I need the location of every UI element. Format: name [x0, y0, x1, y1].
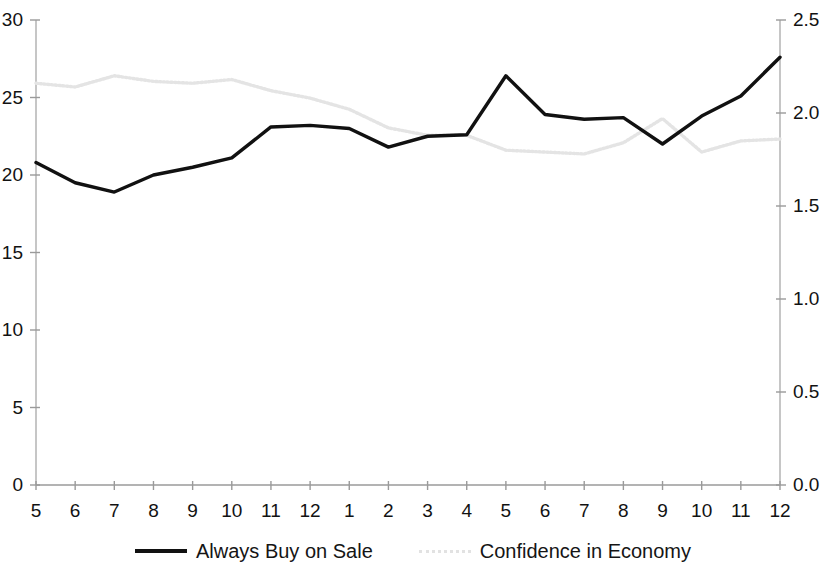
x-axis-tick-label: 7 [94, 501, 134, 520]
y-axis-left-tick-label: 30 [0, 10, 23, 29]
dotted-line-swatch-icon [419, 550, 471, 553]
legend-label: Confidence in Economy [480, 540, 691, 562]
y-axis-left-tick-label: 25 [0, 88, 23, 107]
y-axis-right-tick-label: 2.5 [793, 10, 819, 29]
y-axis-left-tick-label: 15 [0, 243, 23, 262]
x-axis-tick-label: 9 [643, 501, 683, 520]
y-axis-left-tick-label: 20 [0, 165, 23, 184]
y-axis-right-tick-label: 0.5 [793, 382, 819, 401]
y-axis-right-tick-label: 2.0 [793, 103, 819, 122]
legend-label: Always Buy on Sale [196, 540, 373, 562]
y-axis-left-tick-label: 5 [0, 398, 23, 417]
y-axis-right-tick-label: 1.0 [793, 289, 819, 308]
x-axis-tick-label: 12 [290, 501, 330, 520]
chart-plot-area [0, 0, 826, 568]
x-axis-tick-label: 2 [368, 501, 408, 520]
legend-item-always-buy-on-sale[interactable]: Always Buy on Sale [135, 540, 373, 562]
x-axis-tick-label: 5 [486, 501, 526, 520]
x-axis-tick-label: 11 [251, 501, 291, 520]
x-axis-tick-label: 7 [564, 501, 604, 520]
x-axis-tick-label: 9 [173, 501, 213, 520]
x-axis-tick-label: 11 [721, 501, 761, 520]
x-axis-tick-label: 10 [212, 501, 252, 520]
x-axis-tick-label: 8 [133, 501, 173, 520]
x-axis-tick-label: 1 [329, 501, 369, 520]
solid-line-swatch-icon [135, 549, 187, 553]
y-axis-left-ticks [30, 20, 40, 485]
y-axis-left-tick-label: 10 [0, 320, 23, 339]
x-axis-tick-label: 10 [682, 501, 722, 520]
y-axis-right-ticks [776, 20, 786, 485]
y-axis-right-tick-label: 0.0 [793, 475, 819, 494]
x-axis-tick-label: 6 [55, 501, 95, 520]
axis-lines [36, 20, 780, 485]
x-axis-tick-label: 3 [408, 501, 448, 520]
y-axis-left-tick-label: 0 [0, 475, 23, 494]
x-axis-tick-label: 6 [525, 501, 565, 520]
x-axis-tick-label: 4 [447, 501, 487, 520]
y-axis-right-tick-label: 1.5 [793, 196, 819, 215]
chart-container: 051015202530 0.00.51.01.52.02.5 56789101… [0, 0, 826, 568]
x-axis-tick-label: 5 [16, 501, 56, 520]
chart-legend: Always Buy on Sale Confidence in Economy [0, 540, 826, 562]
x-axis-tick-label: 12 [760, 501, 800, 520]
x-axis-tick-label: 8 [603, 501, 643, 520]
legend-item-confidence-in-economy[interactable]: Confidence in Economy [419, 540, 691, 562]
